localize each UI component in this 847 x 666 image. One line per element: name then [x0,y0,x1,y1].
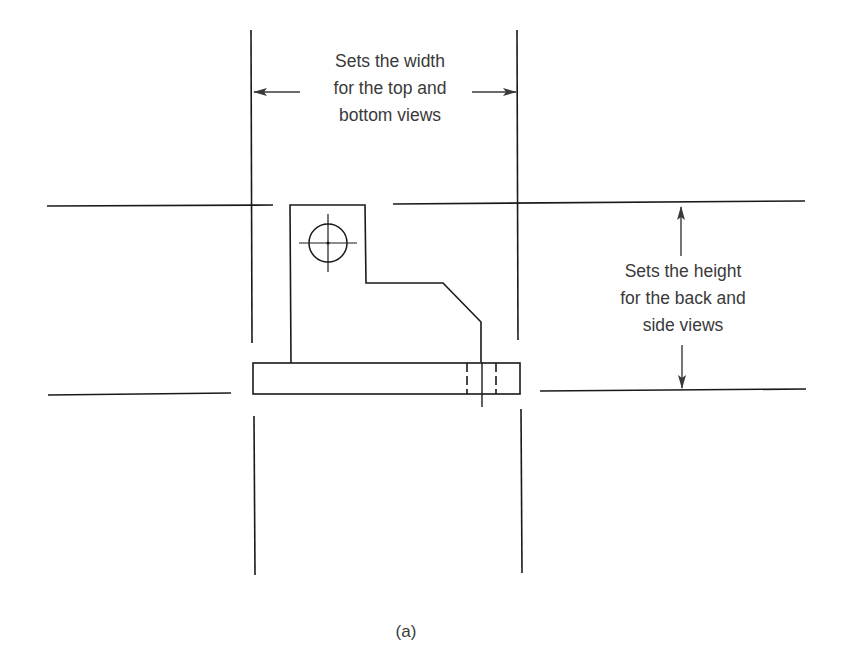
height-annotation-line-2: for the back and [588,285,778,312]
height-annotation-label: Sets the height for the back and side vi… [588,258,778,339]
projection-line-left-upper [251,30,252,343]
projection-line-bottom-left [48,393,231,395]
width-annotation-line-3: bottom views [300,102,480,129]
width-annotation-line-1: Sets the width [300,48,480,75]
height-annotation-line-3: side views [588,312,778,339]
projection-line-right-lower [521,409,522,573]
height-annotation-line-1: Sets the height [588,258,778,285]
width-annotation-label: Sets the width for the top and bottom vi… [300,48,480,129]
projection-line-top-left [47,205,273,206]
projection-line-left-lower [254,416,255,575]
projection-line-bottom-right [540,389,806,391]
part-upright-outline [290,205,481,363]
part-base-outline [253,363,520,394]
projection-line-top-right [393,201,805,204]
width-annotation-line-2: for the top and [300,75,480,102]
figure-caption: (a) [376,618,436,645]
projection-line-right-upper [517,30,518,340]
